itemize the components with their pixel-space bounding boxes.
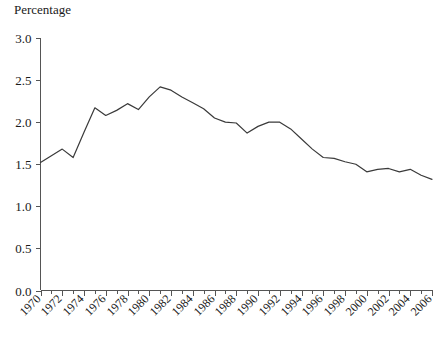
x-tick-label: 2002 — [365, 292, 392, 319]
x-tick-label: 1996 — [299, 292, 326, 319]
x-tick-label: 1990 — [234, 292, 261, 319]
y-axis-ticks: 0.00.51.01.52.02.53.0 — [15, 31, 40, 299]
x-tick-label: 1982 — [147, 292, 174, 319]
line-chart-plot: 0.00.51.01.52.02.53.0 197019721974197619… — [0, 0, 448, 341]
x-tick-label: 2004 — [386, 292, 413, 319]
x-tick-label: 2006 — [408, 292, 435, 319]
y-tick-label: 2.5 — [15, 73, 31, 88]
y-tick-label: 0.5 — [15, 241, 31, 256]
y-tick-label: 2.0 — [15, 115, 31, 130]
x-axis-tick-labels: 1970197219741976197819801982198419861988… — [17, 292, 435, 319]
chart-container: Percentage 0.00.51.01.52.02.53.0 1970197… — [0, 0, 448, 341]
x-tick-label: 1972 — [38, 292, 65, 319]
x-tick-label: 1984 — [169, 292, 196, 319]
x-tick-label: 1986 — [191, 292, 218, 319]
x-tick-label: 1998 — [321, 292, 348, 319]
x-tick-label: 1994 — [278, 292, 305, 319]
x-tick-label: 1974 — [60, 292, 87, 319]
x-tick-label: 1992 — [256, 292, 283, 319]
x-tick-label: 1980 — [125, 292, 152, 319]
x-tick-label: 1978 — [104, 292, 131, 319]
y-tick-label: 3.0 — [15, 31, 31, 46]
data-series-line — [41, 87, 433, 180]
y-tick-label: 1.0 — [15, 199, 31, 214]
y-tick-label: 1.5 — [15, 157, 31, 172]
x-tick-label: 1976 — [82, 292, 109, 319]
x-tick-label: 1988 — [212, 292, 239, 319]
x-tick-label: 2000 — [343, 292, 370, 319]
